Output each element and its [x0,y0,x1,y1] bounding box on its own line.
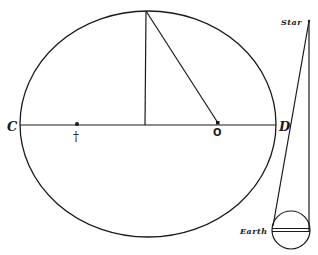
orbit-diagram: C D O † Star Earth [0,0,318,255]
point-o-dot [216,121,220,125]
left-focus-dot [75,122,79,126]
label-c: C [7,119,18,134]
semi-minor-axis-line [145,11,146,125]
earth-circle [272,211,310,249]
focus-dagger-mark: † [73,130,79,144]
orbit-ellipse [20,11,276,237]
focal-radius-line [146,11,218,123]
label-star: Star [281,17,302,27]
label-earth: Earth [239,226,268,236]
label-o: O [213,127,222,138]
